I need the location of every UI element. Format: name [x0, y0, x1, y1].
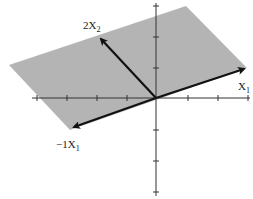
label-neg-x1: −1X1 [56, 138, 80, 153]
vector-span-diagram: X1 2X2 −1X1 [0, 0, 253, 199]
label-x1: X1 [238, 80, 250, 95]
label-2x2: 2X2 [83, 19, 100, 34]
